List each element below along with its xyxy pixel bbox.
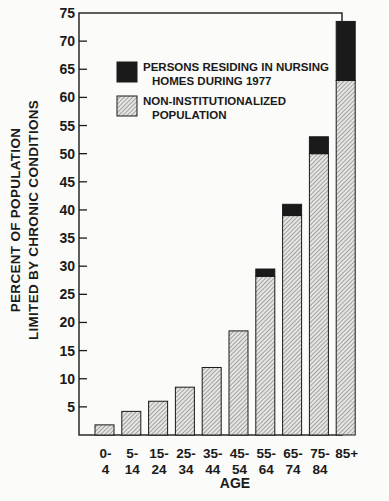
y-axis-label-line-2: LIMITED BY CHRONIC CONDITIONS [26, 20, 41, 420]
y-tick-label: 50 [59, 146, 75, 162]
x-tick-label: 55- [257, 446, 277, 461]
bar-non-institutionalized [309, 154, 328, 435]
y-tick-label: 20 [59, 314, 75, 330]
bar-non-institutionalized [256, 276, 275, 435]
y-tick-label: 70 [59, 33, 75, 49]
y-tick-label: 40 [59, 202, 75, 218]
y-tick-label: 25 [59, 286, 75, 302]
x-tick-label: 0- [99, 446, 111, 461]
y-tick-label: 45 [59, 174, 75, 190]
bar-non-institutionalized [149, 401, 168, 435]
x-tick-label: 4 [102, 462, 110, 477]
y-tick-label: 5 [67, 399, 75, 415]
legend-label: HOMES DURING 1977 [152, 75, 272, 87]
x-tick-label: 24 [152, 462, 168, 477]
y-tick-label: 35 [59, 230, 75, 246]
y-tick-label: 75 [59, 5, 75, 21]
y-tick-label: 30 [59, 258, 75, 274]
legend-label: PERSONS RESIDING IN NURSING [143, 61, 329, 73]
x-tick-label: 25- [176, 446, 196, 461]
legend-label: NON-INSTITUTIONALIZED [143, 95, 286, 107]
x-axis-label: AGE [220, 475, 250, 491]
x-tick-label: 35- [203, 446, 223, 461]
y-axis-label: PERCENT OF POPULATION LIMITED BY CHRONIC… [8, 20, 41, 420]
legend-swatch [117, 96, 137, 116]
x-tick-label: 75- [310, 446, 330, 461]
bar-non-institutionalized [202, 367, 221, 435]
y-tick-label: 55 [59, 118, 75, 134]
bar-non-institutionalized [122, 411, 141, 435]
legend-label: POPULATION [152, 109, 227, 121]
x-tick-label: 15- [149, 446, 169, 461]
bar-nursing-homes [336, 21, 355, 80]
bar-nursing-homes [283, 204, 302, 215]
bar-non-institutionalized [175, 387, 194, 435]
x-tick-labels: 0-45-1415-2425-3435-4445-5455-6465-7475-… [99, 446, 358, 477]
x-tick-label: 84 [312, 462, 328, 477]
bar-non-institutionalized [229, 331, 248, 435]
y-tick-label: 15 [59, 343, 75, 359]
y-tick-label: 10 [59, 371, 75, 387]
x-tick-label: 64 [259, 462, 275, 477]
x-tick-label: 5- [126, 446, 138, 461]
x-tick-label: 65- [283, 446, 303, 461]
bar-non-institutionalized [283, 216, 302, 435]
x-tick-label: 45- [230, 446, 250, 461]
legend-swatch [117, 62, 137, 82]
bar-non-institutionalized [95, 425, 114, 435]
bar-non-institutionalized [336, 81, 355, 435]
y-axis-label-line-1: PERCENT OF POPULATION [8, 20, 23, 420]
chart: PERCENT OF POPULATION LIMITED BY CHRONIC… [0, 0, 389, 501]
legend: PERSONS RESIDING IN NURSINGHOMES DURING … [117, 61, 329, 121]
x-tick-label: 14 [125, 462, 141, 477]
bar-nursing-homes [309, 137, 328, 154]
x-tick-label: 34 [178, 462, 194, 477]
plot-area: 51015202530354045505560657075 0-45-1415-… [0, 0, 389, 501]
x-tick-label: 44 [205, 462, 221, 477]
y-tick-label: 60 [59, 89, 75, 105]
x-tick-label: 85+ [335, 446, 358, 461]
bar-nursing-homes [256, 269, 275, 276]
x-tick-label: 74 [286, 462, 302, 477]
y-tick-label: 65 [59, 61, 75, 77]
